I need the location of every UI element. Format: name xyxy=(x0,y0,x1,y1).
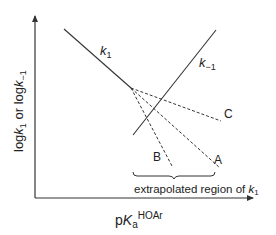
x-axis-label: pKaHOAr xyxy=(115,210,163,230)
label-b: B xyxy=(153,150,161,164)
k1-label: k1 xyxy=(100,43,112,60)
label-c: C xyxy=(224,107,233,121)
extrapolation-b-line xyxy=(131,88,172,166)
k1-line xyxy=(64,29,131,88)
label-a: A xyxy=(214,153,222,167)
extrapolated-region-label: extrapolated region of k1 xyxy=(134,183,259,197)
diagram-canvas: k1 k−1 C B A extrapolated region of k1 p… xyxy=(0,0,276,235)
y-axis-label: logk1 or logk−1 xyxy=(11,70,28,152)
region-brace xyxy=(133,172,215,179)
extrapolation-a-line xyxy=(131,88,220,168)
k-minus1-line xyxy=(133,30,216,135)
extrapolation-c-line xyxy=(131,88,221,121)
k-minus1-label: k−1 xyxy=(199,55,216,72)
